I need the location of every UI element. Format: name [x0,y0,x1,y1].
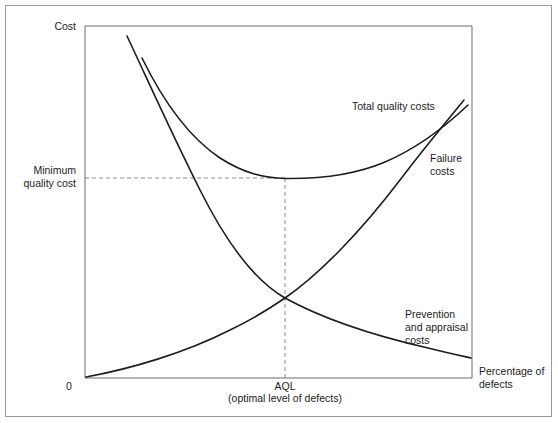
origin-label: 0 [62,380,76,393]
series-label-total-quality-costs: Total quality costs [352,100,472,113]
quality-cost-chart-figure: Cost Minimum quality cost 0 AQL (optimal… [0,0,558,423]
x-axis-title: Percentage of defects [479,365,553,391]
y-tick-minimum-quality-cost: Minimum quality cost [6,164,76,190]
y-axis-title: Cost [28,20,76,33]
curve-total-quality-costs [142,58,468,179]
chart-canvas [0,0,558,423]
x-tick-aql-sublabel: (optimal level of defects) [205,392,365,405]
series-label-prevention-appraisal-costs: Prevention and appraisal costs [405,308,497,347]
series-label-failure-costs: Failure costs [430,152,486,178]
